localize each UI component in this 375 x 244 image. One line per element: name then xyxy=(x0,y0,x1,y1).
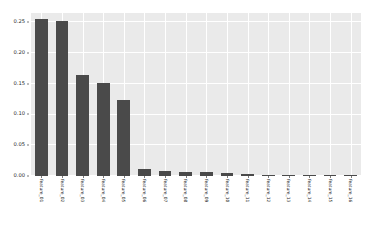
x-tick-label: feature_11 xyxy=(245,179,249,202)
x-tick-label: feature_09 xyxy=(204,179,208,202)
x-tick-mark xyxy=(351,176,352,178)
y-tick-label: 0.05 xyxy=(13,143,25,148)
bar xyxy=(138,169,151,176)
x-tick-label: feature_04 xyxy=(100,179,104,202)
x-tick-mark xyxy=(289,176,290,178)
y-tick-mark xyxy=(27,52,29,53)
y-tick-label: 0.15 xyxy=(13,81,25,86)
x-tick-label: feature_16 xyxy=(348,179,352,202)
x-tick-label: feature_06 xyxy=(142,179,146,202)
bar xyxy=(35,19,48,176)
x-tick-label: feature_08 xyxy=(183,179,187,202)
bar xyxy=(117,100,130,176)
y-tick-mark xyxy=(27,176,29,177)
x-tick-label: feature_13 xyxy=(286,179,290,202)
x-tick-mark xyxy=(309,176,310,178)
y-tick-mark xyxy=(27,22,29,23)
plot-panel xyxy=(31,13,361,176)
x-tick-mark xyxy=(83,176,84,178)
x-tick-label: feature_15 xyxy=(327,179,331,202)
bar xyxy=(97,83,110,176)
x-tick-mark xyxy=(144,176,145,178)
y-tick-label: 0.00 xyxy=(13,173,25,178)
bar xyxy=(56,21,69,176)
x-tick-mark xyxy=(268,176,269,178)
x-tick-mark xyxy=(165,176,166,178)
x-tick-mark xyxy=(124,176,125,178)
x-tick-mark xyxy=(41,176,42,178)
x-tick-label: feature_01 xyxy=(39,179,43,202)
y-tick-mark xyxy=(27,145,29,146)
y-tick-mark xyxy=(27,83,29,84)
x-tick-label: feature_02 xyxy=(59,179,63,202)
x-tick-mark xyxy=(62,176,63,178)
x-tick-label: feature_07 xyxy=(162,179,166,202)
chart-figure: 0.000.050.100.150.200.25 feature_01featu… xyxy=(0,0,375,244)
bar xyxy=(76,75,89,176)
x-tick-mark xyxy=(248,176,249,178)
y-tick-label: 0.20 xyxy=(13,50,25,55)
x-axis-labels: feature_01feature_02feature_03feature_04… xyxy=(31,179,361,243)
x-tick-label: feature_05 xyxy=(121,179,125,202)
y-axis: 0.000.050.100.150.200.25 xyxy=(0,13,29,176)
x-tick-mark xyxy=(186,176,187,178)
y-tick-label: 0.10 xyxy=(13,112,25,117)
x-tick-label: feature_10 xyxy=(224,179,228,202)
x-tick-mark xyxy=(227,176,228,178)
x-tick-label: feature_14 xyxy=(307,179,311,202)
y-tick-label: 0.25 xyxy=(13,20,25,25)
x-tick-label: feature_12 xyxy=(265,179,269,202)
y-tick-mark xyxy=(27,114,29,115)
x-tick-mark xyxy=(330,176,331,178)
x-tick-label: feature_03 xyxy=(80,179,84,202)
x-tick-mark xyxy=(103,176,104,178)
bar-series xyxy=(31,13,361,176)
x-tick-mark xyxy=(206,176,207,178)
